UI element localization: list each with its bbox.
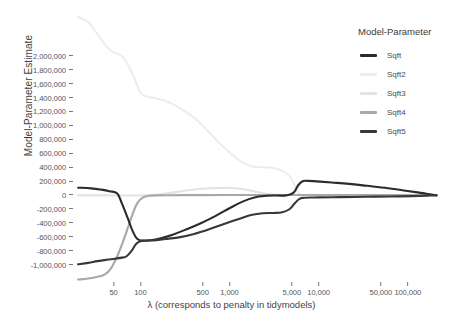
- x-tick-label: 100: [134, 288, 146, 297]
- legend-swatch-icon: [358, 69, 378, 80]
- x-tick-mark: [113, 282, 114, 286]
- x-tick-label: 5,000: [283, 288, 302, 297]
- x-tick-mark: [318, 282, 319, 286]
- x-tick-label: 1,000: [220, 288, 239, 297]
- legend-swatch-icon: [358, 107, 378, 118]
- x-tick-mark: [140, 282, 141, 286]
- legend-item-label: Sqft3: [387, 89, 406, 98]
- x-tick-label: 50: [109, 288, 117, 297]
- x-tick-mark: [407, 282, 408, 286]
- legend-swatch-icon: [358, 50, 378, 61]
- legend-item-sqft[interactable]: Sqft: [358, 46, 463, 65]
- x-tick-label: 100,000: [394, 288, 421, 297]
- legend-item-label: Sqft2: [387, 70, 406, 79]
- legend-swatch-icon: [358, 88, 378, 99]
- legend-swatch-icon: [358, 126, 378, 137]
- x-axis-title: λ (corresponds to penalty in tidymodels): [0, 299, 463, 310]
- legend-item-sqft4[interactable]: Sqft4: [358, 103, 463, 122]
- legend-item-label: Sqft5: [387, 127, 406, 136]
- x-tick-mark: [380, 282, 381, 286]
- x-tick-mark: [291, 282, 292, 286]
- x-tick-mark: [229, 282, 230, 286]
- legend-item-sqft3[interactable]: Sqft3: [358, 84, 463, 103]
- legend-item-sqft2[interactable]: Sqft2: [358, 65, 463, 84]
- x-tick-label: 10,000: [307, 288, 330, 297]
- x-tick-label: 500: [196, 288, 208, 297]
- legend-items: SqftSqft2Sqft3Sqft4Sqft5: [358, 46, 463, 141]
- x-tick-mark: [202, 282, 203, 286]
- x-tick-label: 50,000: [370, 288, 393, 297]
- legend-item-label: Sqft: [387, 51, 401, 60]
- chart-container: Model-Parameter Estimate 2,000,0001,800,…: [0, 0, 463, 327]
- legend-item-label: Sqft4: [387, 108, 406, 117]
- legend: Model-Parameter SqftSqft2Sqft3Sqft4Sqft5: [358, 26, 463, 141]
- legend-title: Model-Parameter: [358, 26, 463, 37]
- legend-item-sqft5[interactable]: Sqft5: [358, 122, 463, 141]
